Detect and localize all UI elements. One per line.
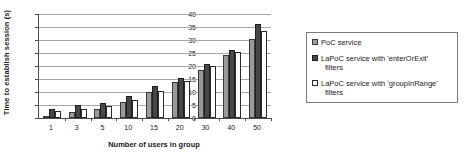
chart-container: Time to establish session (s) 0510152025…: [0, 0, 464, 161]
x-axis-tick-mark: [194, 118, 195, 121]
legend-swatch-icon: [312, 55, 318, 61]
plot-area: [38, 14, 271, 119]
bar: [235, 52, 241, 118]
bar-group: [91, 14, 117, 118]
y-axis-title-label: Time to establish session (s): [3, 10, 12, 115]
x-axis-tick-mark: [116, 118, 117, 121]
legend-item: LaPoC service with 'groupInRange' filter…: [312, 79, 453, 97]
x-axis-tick-label: 5: [89, 124, 115, 131]
bar: [81, 109, 87, 118]
bar: [210, 66, 216, 118]
legend-swatch-icon: [312, 39, 318, 45]
x-axis-tick-label: 50: [244, 124, 270, 131]
x-axis-tick-mark: [219, 118, 220, 121]
bar-group: [116, 14, 142, 118]
x-axis-tick-mark: [245, 118, 246, 121]
legend-label: LaPoC service with 'groupInRange' filter…: [321, 79, 438, 97]
y-axis-title: Time to establish session (s): [0, 0, 14, 125]
x-axis-tick-label: 30: [193, 124, 219, 131]
bar: [106, 106, 112, 118]
legend-label: LaPoC service with 'enterOrExit' filters: [321, 54, 428, 72]
bar-group: [245, 14, 271, 118]
x-axis-title: Number of users in group: [38, 140, 270, 149]
chart-legend: PoC service LaPoC service with 'enterOrE…: [306, 32, 458, 103]
bar-group: [39, 14, 65, 118]
bar: [132, 100, 138, 118]
x-axis-tick-mark: [142, 118, 143, 121]
bar-group: [142, 14, 168, 118]
x-axis-tick-label: 3: [64, 124, 90, 131]
x-axis-tick-label: 20: [167, 124, 193, 131]
bar-group: [168, 14, 194, 118]
x-axis-tick-label: 1: [38, 124, 64, 131]
bar: [184, 81, 190, 118]
legend-label: PoC service: [321, 38, 361, 47]
bar-group: [219, 14, 245, 118]
x-axis-tick-mark: [271, 118, 272, 121]
legend-item: LaPoC service with 'enterOrExit' filters: [312, 54, 453, 72]
bar: [261, 31, 267, 118]
x-axis-tick-label: 40: [218, 124, 244, 131]
bar-group: [194, 14, 220, 118]
bar: [55, 111, 61, 118]
x-axis-tick-mark: [65, 118, 66, 121]
x-axis-tick-label: 10: [115, 124, 141, 131]
bar: [158, 91, 164, 118]
legend-item: PoC service: [312, 38, 453, 47]
legend-swatch-icon: [312, 80, 318, 86]
bar-group: [65, 14, 91, 118]
x-axis-tick-mark: [168, 118, 169, 121]
x-axis-tick-label: 15: [141, 124, 167, 131]
x-axis-tick-mark: [91, 118, 92, 121]
